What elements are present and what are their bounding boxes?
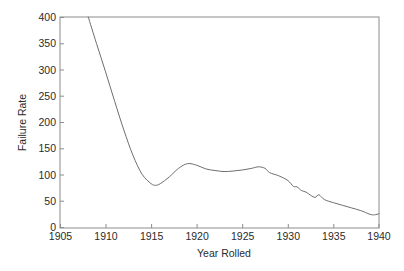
y-axis-tick-labels: 0 50 100 150 200 250 300 350 400 — [38, 11, 56, 233]
x-tick-label-1915: 1915 — [140, 230, 164, 242]
failure-rate-curve — [88, 17, 379, 215]
y-tick-label-50: 50 — [44, 195, 56, 207]
y-axis-title: Failure Rate — [16, 94, 28, 151]
x-tick-label-1905: 1905 — [49, 230, 73, 242]
y-tick-label-150: 150 — [38, 142, 56, 154]
x-tick-label-1935: 1935 — [322, 230, 346, 242]
x-tick-label-1910: 1910 — [94, 230, 118, 242]
y-axis-ticks — [60, 18, 64, 228]
x-tick-label-1940: 1940 — [367, 230, 391, 242]
failure-rate-line-chart: 0 50 100 150 200 250 300 350 400 1905 19… — [0, 0, 404, 271]
x-axis-tick-labels: 1905 1910 1915 1920 1925 1930 1935 1940 — [49, 230, 391, 242]
y-tick-label-250: 250 — [38, 90, 56, 102]
y-tick-label-300: 300 — [38, 64, 56, 76]
x-axis-title: Year Rolled — [197, 247, 251, 259]
chart-container: 0 50 100 150 200 250 300 350 400 1905 19… — [0, 0, 404, 271]
x-tick-label-1925: 1925 — [231, 230, 255, 242]
plot-frame — [60, 17, 379, 228]
y-tick-label-350: 350 — [38, 37, 56, 49]
x-tick-label-1920: 1920 — [185, 230, 209, 242]
y-tick-label-100: 100 — [38, 169, 56, 181]
y-tick-label-400: 400 — [38, 11, 56, 23]
y-tick-label-200: 200 — [38, 116, 56, 128]
x-axis-ticks — [61, 224, 380, 228]
x-tick-label-1930: 1930 — [277, 230, 301, 242]
